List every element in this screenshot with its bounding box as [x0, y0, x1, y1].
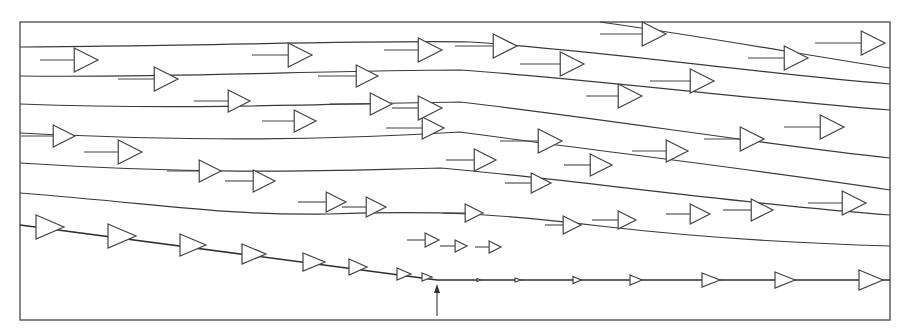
- arrow-head: [859, 270, 883, 290]
- wall-segment: [20, 225, 437, 280]
- wall-velocity-arrow-icon: [775, 272, 795, 288]
- velocity-arrow-icon: [784, 115, 844, 139]
- arrow-head: [180, 234, 206, 256]
- wall-velocity-arrow-icon: [180, 234, 206, 256]
- velocity-arrow-icon: [118, 67, 178, 91]
- arrow-head: [573, 277, 581, 284]
- arrow-head: [53, 125, 75, 147]
- arrow-head: [690, 204, 710, 224]
- velocity-arrow-icon: [520, 52, 584, 76]
- arrow-head: [493, 34, 517, 58]
- velocity-arrow-icon: [262, 110, 316, 132]
- arrow-head: [861, 31, 885, 55]
- arrow-head: [590, 154, 612, 176]
- arrow-head: [242, 244, 266, 264]
- wall-velocity-arrow-icon: [477, 279, 481, 282]
- velocity-arrow-icon: [443, 204, 483, 222]
- wall-velocity-arrow-icon: [859, 270, 883, 290]
- wall-velocity-arrow-icon: [108, 224, 136, 248]
- arrow-head: [455, 240, 467, 252]
- arrow-head: [751, 199, 773, 221]
- velocity-arrow-icon: [342, 197, 386, 217]
- wall-velocity-arrow-icon: [303, 253, 325, 271]
- velocity-arrow-icon: [564, 154, 612, 176]
- arrow-head: [422, 117, 444, 139]
- velocity-arrow-icon: [650, 69, 714, 93]
- velocity-arrow-icon: [252, 43, 312, 67]
- arrow-head: [531, 173, 551, 193]
- velocity-arrow-icon: [808, 191, 866, 215]
- arrow-head: [740, 127, 764, 151]
- velocity-arrow-icon: [723, 199, 773, 221]
- wall-velocity-arrow-icon: [397, 268, 411, 280]
- wall-velocity-arrow-icon: [515, 278, 521, 282]
- arrow-head: [425, 233, 439, 247]
- streamline: [20, 42, 890, 84]
- streamline-diagram: [0, 0, 910, 336]
- streamline: [20, 193, 890, 246]
- arrow-head: [477, 279, 481, 282]
- wall-velocity-vectors-group: [36, 215, 883, 290]
- arrow-head: [356, 65, 378, 87]
- arrow-head: [775, 272, 795, 288]
- arrow-head: [474, 149, 496, 171]
- velocity-arrow-icon: [318, 65, 378, 87]
- velocity-arrow-icon: [586, 84, 642, 108]
- marker-head: [434, 284, 440, 293]
- velocity-arrow-icon: [505, 173, 551, 193]
- velocity-arrow-icon: [545, 216, 581, 234]
- arrow-head: [397, 268, 411, 280]
- arrow-head: [228, 90, 250, 112]
- wall-velocity-arrow-icon: [242, 244, 266, 264]
- velocity-arrow-icon: [21, 125, 75, 147]
- velocity-arrow-icon: [704, 127, 764, 151]
- wall-velocity-arrow-icon: [349, 259, 367, 275]
- velocity-arrow-icon: [600, 22, 666, 46]
- arrow-head: [294, 110, 316, 132]
- streamline: [20, 70, 890, 110]
- velocity-arrow-icon: [500, 129, 562, 153]
- velocity-arrow-icon: [84, 140, 142, 164]
- velocity-arrow-icon: [392, 96, 442, 120]
- separation-point-marker-arrow-icon: [434, 284, 440, 316]
- arrow-head: [618, 211, 636, 229]
- flow-field-canvas: [0, 0, 910, 336]
- arrow-head: [784, 46, 808, 70]
- arrow-head: [842, 191, 866, 215]
- arrow-head: [642, 22, 666, 46]
- arrow-head: [465, 204, 483, 222]
- arrow-head: [666, 140, 688, 162]
- arrow-head: [618, 84, 642, 108]
- arrow-head: [418, 96, 442, 120]
- arrow-head: [253, 170, 275, 192]
- velocity-arrow-icon: [167, 160, 221, 182]
- arrow-head: [515, 278, 521, 282]
- velocity-arrow-icon: [455, 34, 517, 58]
- arrow-head: [36, 215, 64, 239]
- arrow-head: [563, 216, 581, 234]
- arrow-head: [560, 52, 584, 76]
- velocity-arrow-icon: [40, 48, 98, 72]
- velocity-arrow-icon: [440, 240, 467, 252]
- velocity-arrow-icon: [475, 241, 501, 253]
- arrow-head: [366, 197, 386, 217]
- arrow-head: [489, 241, 501, 253]
- velocity-arrow-icon: [407, 233, 439, 247]
- velocity-arrow-icon: [225, 170, 275, 192]
- wall-velocity-arrow-icon: [630, 275, 642, 285]
- wall-velocity-arrow-icon: [36, 215, 64, 239]
- velocity-arrow-icon: [446, 149, 496, 171]
- velocity-arrow-icon: [330, 93, 392, 115]
- velocity-arrow-icon: [666, 204, 710, 224]
- wall-velocity-arrow-icon: [573, 277, 581, 284]
- arrow-head: [690, 69, 714, 93]
- arrow-head: [370, 93, 392, 115]
- arrow-head: [118, 140, 142, 164]
- arrow-head: [199, 160, 221, 182]
- arrow-head: [154, 67, 178, 91]
- arrow-head: [108, 224, 136, 248]
- velocity-arrow-icon: [298, 192, 346, 212]
- arrow-head: [630, 275, 642, 285]
- velocity-arrow-icon: [194, 90, 250, 112]
- arrow-head: [538, 129, 562, 153]
